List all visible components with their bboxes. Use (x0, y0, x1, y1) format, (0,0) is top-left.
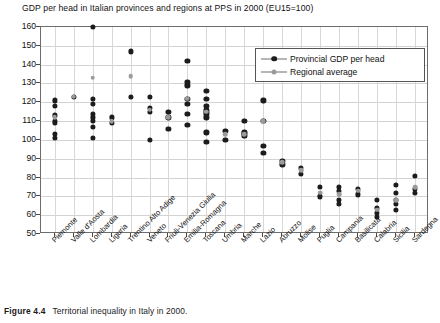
data-point-regional (166, 115, 171, 120)
caption-figure-number: Figure 4.4 (4, 306, 46, 316)
data-point-provincial (90, 24, 95, 29)
gridline-horizontal (41, 102, 427, 103)
data-point-regional (204, 109, 209, 114)
caption-text: Territorial inequality in Italy in 2000. (46, 306, 188, 316)
data-point-provincial (204, 96, 209, 101)
gridline-horizontal (41, 46, 427, 47)
data-point-provincial (204, 130, 209, 135)
data-point-provincial (204, 88, 209, 93)
gridline-vertical (93, 27, 94, 232)
legend-item-provincial: Provincial GDP per head (261, 52, 419, 65)
y-tick-label: 100 (22, 134, 36, 144)
y-tick-label: 130 (22, 77, 36, 87)
data-point-regional (90, 76, 95, 81)
data-point-provincial (394, 190, 399, 195)
gridline-horizontal (41, 159, 427, 160)
data-point-regional (109, 119, 114, 124)
data-point-provincial (147, 137, 152, 142)
data-point-provincial (261, 150, 266, 155)
gridline-vertical (112, 27, 113, 232)
data-point-provincial (90, 96, 95, 101)
y-tick-label: 110 (22, 115, 36, 125)
gridline-horizontal (41, 83, 427, 84)
data-point-provincial (375, 198, 380, 203)
y-axis-labels: 5060708090100110120130140150160 (0, 26, 36, 233)
legend-marker-provincial-icon (261, 53, 287, 64)
data-point-regional (52, 115, 57, 120)
data-point-provincial (204, 139, 209, 144)
x-axis-labels: PiemonteValle d'AostaLombardiaLiguriaTre… (0, 236, 434, 306)
data-point-regional (318, 190, 323, 195)
data-point-regional (185, 96, 190, 101)
data-point-regional (356, 188, 361, 193)
data-point-provincial (185, 102, 190, 107)
chart-title: GDP per head in Italian provinces and re… (22, 3, 313, 13)
legend-item-regional: Regional average (261, 65, 419, 78)
data-point-provincial (394, 182, 399, 187)
figure-caption: Figure 4.4Territorial inequality in Ital… (4, 306, 187, 316)
gridline-horizontal (41, 121, 427, 122)
data-point-provincial (337, 201, 342, 206)
y-tick-label: 120 (22, 96, 36, 106)
data-point-provincial (242, 118, 247, 123)
data-point-provincial (185, 83, 190, 88)
gridline-horizontal (41, 140, 427, 141)
gridline-horizontal (41, 196, 427, 197)
data-point-provincial (128, 94, 133, 99)
data-point-provincial (318, 184, 323, 189)
data-point-provincial (147, 94, 152, 99)
y-tick-label: 80 (26, 172, 36, 182)
y-tick-label: 90 (26, 153, 36, 163)
data-point-provincial (223, 137, 228, 142)
data-point-regional (375, 207, 380, 212)
data-point-regional (261, 119, 266, 124)
data-point-regional (147, 108, 152, 113)
y-tick-label: 60 (26, 209, 36, 219)
data-point-provincial (52, 120, 57, 125)
data-point-regional (413, 185, 418, 190)
gridline-horizontal (41, 178, 427, 179)
data-point-provincial (90, 102, 95, 107)
data-point-provincial (261, 143, 266, 148)
data-point-regional (242, 132, 247, 137)
data-point-regional (128, 74, 133, 79)
data-point-provincial (185, 111, 190, 116)
data-point-regional (394, 198, 399, 203)
y-tick-label: 140 (22, 59, 36, 69)
data-point-regional (280, 160, 285, 165)
data-point-regional (71, 94, 76, 99)
data-point-provincial (90, 124, 95, 129)
data-point-regional (299, 168, 304, 173)
data-point-provincial (185, 58, 190, 63)
data-point-provincial (185, 122, 190, 127)
legend-label-provincial: Provincial GDP per head (287, 54, 384, 64)
y-tick-label: 150 (22, 40, 36, 50)
data-point-provincial (394, 207, 399, 212)
gridline-vertical (55, 27, 56, 232)
data-point-regional (337, 192, 342, 197)
legend-marker-regional-icon (261, 66, 287, 77)
gridline-vertical (131, 27, 132, 232)
data-point-provincial (128, 49, 133, 54)
y-tick-label: 70 (26, 190, 36, 200)
data-point-regional (223, 132, 228, 137)
data-point-provincial (90, 118, 95, 123)
data-point-provincial (166, 109, 171, 114)
y-tick-label: 160 (22, 21, 36, 31)
legend-label-regional: Regional average (287, 67, 357, 77)
data-point-provincial (413, 190, 418, 195)
data-point-provincial (52, 103, 57, 108)
gridline-vertical (150, 27, 151, 232)
data-point-provincial (204, 115, 209, 120)
gridline-vertical (74, 27, 75, 232)
chart-legend: Provincial GDP per head Regional average (255, 48, 425, 82)
data-point-provincial (166, 126, 171, 131)
